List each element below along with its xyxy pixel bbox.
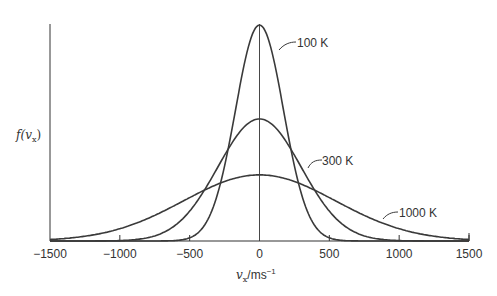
x-tick-label: −1500: [33, 247, 67, 261]
x-tick-label: −500: [176, 247, 203, 261]
x-label-unit: /ms: [247, 268, 266, 282]
x-tick-label: 500: [319, 247, 339, 261]
x-tick-label: 1500: [456, 247, 483, 261]
x-tick-label: 0: [256, 247, 263, 261]
x-tick-labels: −1500−1000−500050010001500: [33, 247, 483, 261]
y-label-f: f(: [15, 128, 25, 142]
curve-label-1000k: 1000 K: [399, 206, 437, 220]
curve-label-300k: 300 K: [322, 154, 353, 168]
leader-100k: [279, 42, 296, 50]
x-tick-label: −1000: [103, 247, 137, 261]
leader-300k: [308, 160, 322, 168]
maxwell-distribution-chart: −1500−1000−500050010001500 100 K 300 K 1…: [0, 0, 497, 296]
curve-label-100k: 100 K: [297, 36, 328, 50]
y-label-close: ): [36, 128, 41, 142]
x-tick-label: 1000: [386, 247, 413, 261]
x-label-exp: −1: [267, 267, 277, 276]
x-axis-label: vx/ms−1: [236, 267, 276, 284]
leader-1000k: [383, 212, 398, 219]
y-axis-label: f(vx): [15, 128, 41, 144]
